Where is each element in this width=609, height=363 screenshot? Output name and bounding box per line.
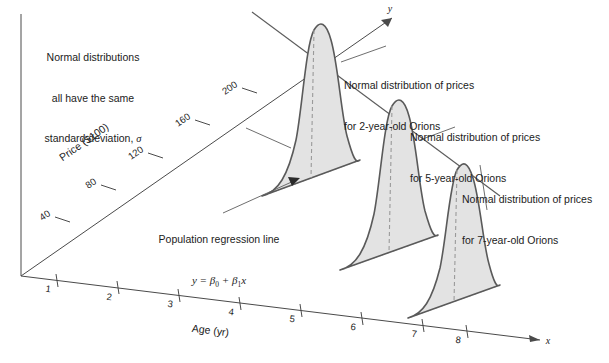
dist-5yr-line1: Normal distribution of prices: [410, 131, 540, 145]
dist-2yr-line1: Normal distribution of prices: [344, 79, 474, 93]
x-axis-arrowhead: [529, 335, 540, 342]
dist-7yr-line1: Normal distribution of prices: [462, 193, 592, 207]
y-tick-160: [195, 120, 210, 125]
leader-sigma-note: [246, 128, 291, 148]
regression-normal-distributions-figure: 40 80 120 160 200 Price ($100) y 1 2 3 4…: [0, 0, 609, 363]
eqn-x: x: [241, 274, 246, 286]
sigma-symbol: σ: [136, 133, 141, 144]
y-tick-label-160: 160: [173, 111, 192, 129]
x-tick-label-8: 8: [455, 334, 462, 346]
eqn-equals: =: [197, 274, 210, 286]
x-axis-title: Age (yr): [191, 322, 230, 338]
sigma-note-annotation: Normal distributions all have the same s…: [18, 24, 168, 173]
y-axis-arrow-label: y: [387, 3, 393, 14]
y-tick-40: [55, 217, 70, 222]
y-tick-80: [101, 185, 116, 190]
sigma-note-line3-text: standard deviation,: [45, 132, 137, 144]
x-tick-label-1: 1: [45, 283, 52, 295]
eqn-plus: +: [219, 274, 232, 286]
sigma-note-line2: all have the same: [18, 92, 168, 106]
x-tick-label-7: 7: [411, 328, 418, 340]
regression-annotation: Population regression line y = β0 + β1x: [144, 206, 294, 318]
dist-7yr-annotation: Normal distribution of prices for 7-year…: [462, 166, 592, 274]
sigma-note-line1: Normal distributions: [18, 51, 168, 65]
regression-equation: y = β0 + β1x: [144, 274, 294, 292]
x-axis-arrow-label: x: [545, 335, 551, 346]
regression-label: Population regression line: [144, 233, 294, 247]
dist-7yr-line2: for 7-year-old Orions: [462, 234, 592, 248]
y-axis-arrowhead: [381, 18, 392, 27]
sigma-note-line3: standard deviation, σ: [18, 132, 168, 146]
y-tick-200: [242, 88, 257, 93]
x-tick-label-6: 6: [350, 321, 357, 333]
y-tick-label-80: 80: [83, 176, 98, 191]
y-tick-label-40: 40: [37, 208, 52, 223]
x-tick-label-2: 2: [106, 291, 113, 303]
y-tick-label-200: 200: [220, 79, 239, 97]
